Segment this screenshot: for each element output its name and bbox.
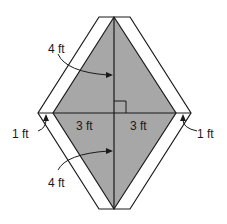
label-right-1ft: 1 ft (197, 127, 214, 141)
label-right-3ft: 3 ft (130, 119, 147, 133)
label-left-1ft: 1 ft (12, 127, 29, 141)
kite-diagram: 4 ft 3 ft 3 ft 1 ft 1 ft 4 ft (0, 0, 227, 224)
label-bottom-4ft: 4 ft (48, 176, 65, 190)
label-left-3ft: 3 ft (76, 119, 93, 133)
label-top-4ft: 4 ft (48, 42, 65, 56)
